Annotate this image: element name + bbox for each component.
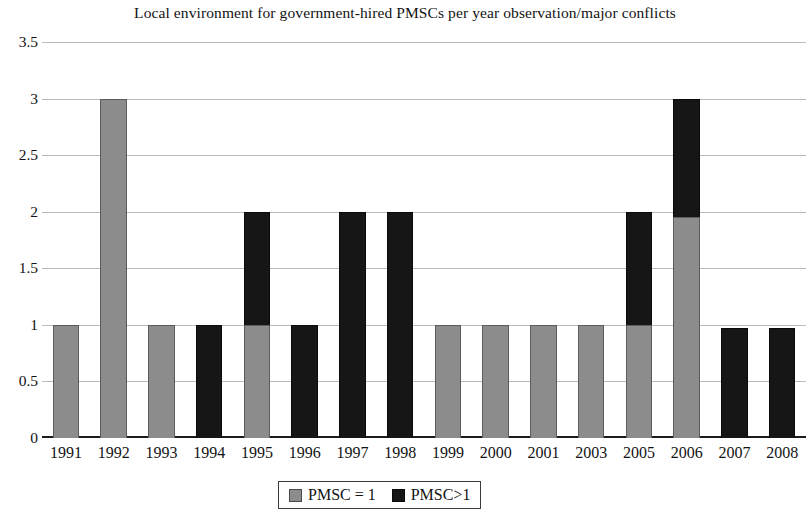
legend-item[interactable]: PMSC = 1	[289, 486, 376, 504]
y-tick-label: 1	[0, 317, 38, 333]
x-tick-label: 1998	[376, 443, 424, 463]
bar-group[interactable]	[578, 325, 605, 438]
bar-segment[interactable]	[626, 325, 653, 438]
y-tick-label: 0.5	[0, 374, 38, 390]
bar-segment[interactable]	[53, 325, 80, 438]
x-tick-label: 2006	[663, 443, 711, 463]
chart-title: Local environment for government-hired P…	[0, 4, 810, 22]
y-tick-label: 3.5	[0, 34, 38, 50]
bar-group[interactable]	[530, 325, 557, 438]
bar-segment[interactable]	[387, 212, 414, 438]
y-tick-label: 0	[0, 430, 38, 446]
bar-segment[interactable]	[626, 212, 653, 325]
x-tick-label: 1993	[138, 443, 186, 463]
bar-group[interactable]	[626, 212, 653, 438]
x-tick-label: 1992	[90, 443, 138, 463]
x-tick-label: 1994	[185, 443, 233, 463]
bar-group[interactable]	[769, 328, 796, 438]
x-tick-label: 2005	[615, 443, 663, 463]
bar-group[interactable]	[721, 328, 748, 438]
y-tick-label: 2	[0, 204, 38, 220]
legend-swatch-black	[392, 489, 405, 502]
x-tick-label: 1996	[281, 443, 329, 463]
bar-group[interactable]	[244, 212, 271, 438]
bar-group[interactable]	[148, 325, 175, 438]
bar-segment[interactable]	[244, 325, 271, 438]
y-tick-label: 1.5	[0, 261, 38, 277]
x-tick-label: 2007	[711, 443, 759, 463]
bar-segment[interactable]	[339, 212, 366, 438]
bar-segment[interactable]	[530, 325, 557, 438]
bar-segment[interactable]	[769, 328, 796, 438]
x-tick-label: 2000	[472, 443, 520, 463]
y-axis-tick-labels: 00.511.522.533.5	[0, 42, 38, 438]
legend-item[interactable]: PMSC>1	[392, 486, 471, 504]
bar-segment[interactable]	[673, 217, 700, 438]
bar-segment[interactable]	[291, 325, 318, 438]
legend-label: PMSC>1	[411, 486, 471, 504]
legend-swatch-gray	[289, 489, 302, 502]
legend-label: PMSC = 1	[308, 486, 376, 504]
x-tick-label: 2001	[520, 443, 568, 463]
bar-segment[interactable]	[578, 325, 605, 438]
x-tick-label: 2003	[567, 443, 615, 463]
bar-group[interactable]	[100, 99, 127, 438]
bar-segment[interactable]	[721, 328, 748, 438]
bar-group[interactable]	[339, 212, 366, 438]
bar-segment[interactable]	[148, 325, 175, 438]
x-tick-label: 1995	[233, 443, 281, 463]
bars-layer	[42, 42, 806, 438]
bar-segment[interactable]	[100, 99, 127, 438]
x-axis-tick-labels: 1991199219931994199519961997199819992000…	[42, 443, 806, 467]
bar-segment[interactable]	[244, 212, 271, 325]
x-tick-label: 1991	[42, 443, 90, 463]
bar-group[interactable]	[673, 99, 700, 438]
bar-group[interactable]	[435, 325, 462, 438]
bar-group[interactable]	[196, 325, 223, 438]
x-tick-label: 1997	[329, 443, 377, 463]
x-tick-label: 1999	[424, 443, 472, 463]
plot-area	[42, 42, 806, 438]
bar-group[interactable]	[53, 325, 80, 438]
bar-group[interactable]	[291, 325, 318, 438]
x-tick-label: 2008	[758, 443, 806, 463]
y-tick-label: 2.5	[0, 147, 38, 163]
y-tick-label: 3	[0, 91, 38, 107]
bar-segment[interactable]	[673, 99, 700, 218]
bar-segment[interactable]	[482, 325, 509, 438]
chart-legend: PMSC = 1PMSC>1	[278, 481, 481, 509]
bar-segment[interactable]	[196, 325, 223, 438]
bar-group[interactable]	[482, 325, 509, 438]
bar-segment[interactable]	[435, 325, 462, 438]
bar-group[interactable]	[387, 212, 414, 438]
bar-chart-figure: Local environment for government-hired P…	[0, 0, 810, 515]
